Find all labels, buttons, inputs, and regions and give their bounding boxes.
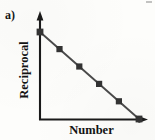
x-axis <box>39 116 148 123</box>
data-point <box>56 46 62 52</box>
y-axis <box>37 11 44 120</box>
data-point <box>136 116 143 123</box>
data-point <box>96 81 102 87</box>
figure-panel: a) Reciprocal Number <box>0 0 155 140</box>
data-point <box>37 29 44 36</box>
x-axis-label: Number <box>0 124 155 137</box>
y-axis-label: Reciprocal <box>18 41 31 98</box>
data-point <box>116 98 122 104</box>
data-line <box>40 32 139 119</box>
data-point <box>76 63 82 69</box>
